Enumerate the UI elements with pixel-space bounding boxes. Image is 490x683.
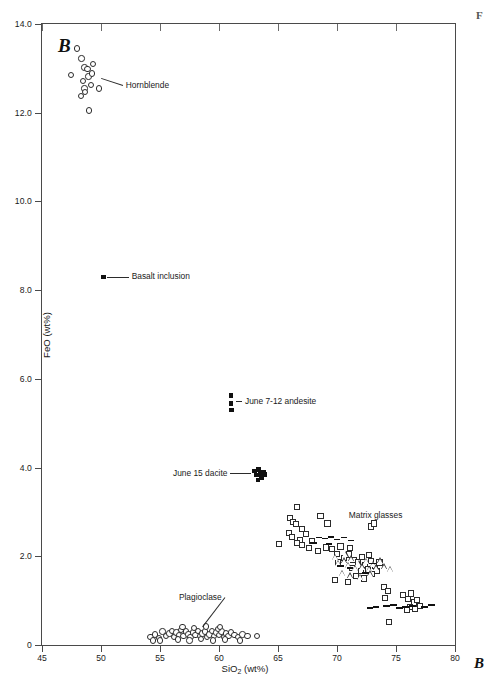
data-point [386, 619, 392, 625]
x-axis-tick [455, 645, 456, 652]
annotation-leader-line [230, 473, 251, 474]
data-point [186, 637, 192, 643]
data-point [402, 606, 408, 608]
y-axis-tick [35, 468, 42, 469]
data-point [404, 607, 410, 613]
x-axis-tick [396, 645, 397, 652]
y-axis-tick [35, 379, 42, 380]
data-point [90, 61, 96, 67]
data-point [377, 557, 383, 563]
x-axis-tick-label: 75 [391, 653, 401, 663]
data-point [80, 78, 86, 84]
data-point [310, 542, 316, 544]
data-point [347, 572, 353, 578]
x-axis-tick-label: 60 [214, 653, 224, 663]
data-point [263, 472, 268, 477]
data-point [337, 565, 343, 567]
data-point [362, 572, 368, 574]
data-point [348, 540, 354, 542]
y-axis-tick-label: 14.0 [15, 19, 32, 29]
legend-sample-square [371, 520, 377, 526]
x-axis-tick-label: 65 [273, 653, 283, 663]
y-axis-tick-label: 8.0 [20, 285, 32, 295]
data-point [210, 637, 216, 643]
data-point [385, 588, 391, 594]
data-point [341, 537, 347, 539]
y-axis-tick [35, 201, 42, 202]
data-point [96, 85, 102, 91]
data-point [237, 637, 243, 643]
x-axis-tick-top [219, 24, 220, 31]
data-point [357, 574, 363, 580]
x-axis-tick [160, 645, 161, 652]
data-point [367, 607, 373, 609]
x-axis-tick-label: 80 [450, 653, 460, 663]
data-point [332, 554, 338, 560]
annotation-label: Matrix glasses [349, 510, 403, 520]
data-point [343, 551, 349, 557]
y-axis-tick [35, 556, 42, 557]
x-axis-tick-top [278, 24, 279, 31]
y-axis-tick-label: 4.0 [20, 463, 32, 473]
annotation-leader-line [107, 277, 129, 278]
data-point [339, 570, 345, 576]
annotation-leader-line [236, 401, 242, 402]
data-point [369, 563, 375, 565]
data-point [387, 566, 393, 572]
data-point [345, 579, 351, 585]
y-axis-tick-label: 12.0 [15, 108, 32, 118]
y-axis-tick [35, 113, 42, 114]
data-point [276, 541, 282, 547]
x-axis-tick [278, 645, 279, 652]
annotation-leader-line [101, 78, 123, 86]
data-point [157, 637, 163, 643]
data-point [326, 543, 332, 545]
data-point [324, 520, 330, 526]
y-axis-title: FeO (wt%) [41, 312, 52, 358]
x-axis-tick [219, 645, 220, 652]
data-point [101, 275, 106, 280]
corner-label-bottom-right: B [474, 655, 484, 672]
data-point [222, 636, 228, 642]
data-point [337, 543, 343, 549]
data-point [332, 577, 338, 583]
data-point [78, 55, 84, 61]
data-point [88, 82, 94, 88]
data-point [68, 72, 74, 78]
x-axis-tick-top [396, 24, 397, 31]
data-point [322, 538, 328, 540]
x-axis-tick [101, 645, 102, 652]
annotation-label: Basalt inclusion [132, 271, 190, 281]
data-point [315, 548, 321, 554]
data-point [294, 504, 300, 510]
data-point [306, 545, 312, 551]
x-axis-tick-label: 70 [332, 653, 342, 663]
data-point [303, 531, 309, 537]
annotation-leader-line [202, 597, 225, 627]
y-axis-tick-label: 6.0 [20, 374, 32, 384]
data-point [179, 624, 185, 630]
data-point [74, 45, 80, 51]
y-axis-tick-label: 2.0 [20, 551, 32, 561]
x-axis-tick-top [101, 24, 102, 31]
data-point [86, 107, 92, 113]
data-point [363, 558, 369, 564]
x-axis-tick-label: 55 [155, 653, 165, 663]
data-point [382, 595, 388, 601]
data-point [373, 606, 379, 608]
annotation-label: June 7-12 andesite [245, 396, 316, 406]
y-axis-tick [35, 290, 42, 291]
data-point [348, 555, 354, 561]
data-point [317, 513, 323, 519]
y-axis-tick-label: 0 [27, 640, 32, 650]
plot-frame: B HornblendeBasalt inclusionJune 7-12 an… [41, 23, 456, 646]
data-point [78, 93, 84, 99]
data-point [229, 401, 234, 406]
figure-container: F B HornblendeBasalt inclusionJune 7-12 … [0, 0, 490, 683]
data-point [383, 605, 389, 607]
data-point [175, 636, 181, 642]
data-point [198, 636, 204, 642]
y-axis-tick-label: 10.0 [15, 196, 32, 206]
plot-area: HornblendeBasalt inclusionJune 7-12 ande… [42, 24, 455, 645]
x-axis-title: SiO2 (wt%) [0, 663, 490, 675]
